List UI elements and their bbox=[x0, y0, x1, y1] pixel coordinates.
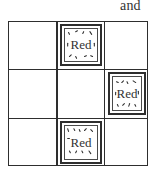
grid-cell-r2-c1[interactable] bbox=[9, 70, 56, 118]
puzzle-grid: Red Red bbox=[8, 21, 148, 166]
grid-cell-r3-c2[interactable]: Red bbox=[57, 119, 103, 166]
tile-label: Red bbox=[71, 135, 92, 151]
tile-label: Red bbox=[117, 86, 138, 102]
grid-cell-r3-c1[interactable] bbox=[9, 119, 56, 166]
red-tile[interactable]: Red bbox=[60, 121, 102, 164]
caption-text: and bbox=[120, 0, 141, 14]
grid-cell-r2-c2[interactable] bbox=[57, 70, 103, 118]
tile-inner-frame: Red bbox=[64, 28, 98, 62]
tile-inner-frame: Red bbox=[112, 76, 142, 111]
tile-label: Red bbox=[71, 37, 92, 53]
grid-cell-r2-c3[interactable]: Red bbox=[105, 70, 149, 118]
red-tile[interactable]: Red bbox=[60, 24, 102, 66]
grid-cell-r1-c3[interactable] bbox=[105, 22, 149, 69]
grid-cell-r1-c2[interactable]: Red bbox=[57, 22, 103, 69]
red-tile[interactable]: Red bbox=[108, 72, 146, 115]
grid-cell-r1-c1[interactable] bbox=[9, 22, 56, 69]
tile-inner-frame: Red bbox=[64, 125, 98, 160]
grid-cell-r3-c3[interactable] bbox=[105, 119, 149, 166]
